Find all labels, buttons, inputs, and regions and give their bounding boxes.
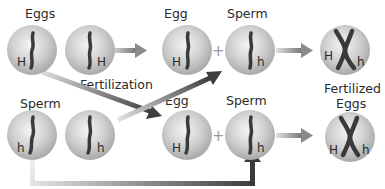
chromosome-icon (89, 33, 91, 68)
zygote-top: H h (320, 25, 370, 75)
arrow-sperm-to-bottom-sperm (30, 150, 261, 186)
zygote-bottom: H h (325, 112, 375, 162)
allele-label-left: H (324, 49, 333, 63)
fertilization-diagram: Eggs Sperm Fertilization Egg Sperm Egg S… (0, 0, 385, 189)
arrow-eggs-to-egg (110, 43, 147, 58)
sperm-cell-1: h (7, 110, 57, 160)
chromosome-icon (186, 117, 189, 153)
sperm-cell-top: h (225, 25, 275, 75)
chromosome-icon (31, 33, 33, 68)
allele-label-right: h (357, 55, 365, 69)
arrow-to-zygote-bottom (276, 128, 313, 143)
label-egg-top: Egg (164, 6, 188, 21)
egg-cell-1: H (7, 25, 57, 75)
egg-cell-bottom: H (162, 110, 212, 160)
allele-label: H (97, 55, 106, 69)
sperm-cell-2: h (65, 110, 115, 160)
sperm-cell-bottom: h (225, 110, 275, 160)
label-sperm-bottom: Sperm (226, 93, 267, 108)
plus-sign-top: + (212, 42, 225, 60)
label-eggs: Eggs (25, 6, 55, 21)
chromosome-icon (250, 117, 252, 153)
chromosome-icon (250, 33, 252, 68)
allele-label: h (97, 141, 105, 155)
allele-label-left: H (329, 143, 338, 157)
label-fertilized: Fertilized (324, 81, 381, 96)
label-sperm-top: Sperm (227, 6, 268, 21)
egg-cell-top: H (162, 25, 212, 75)
allele-label-right: h (362, 143, 370, 157)
chromosome-icon (187, 33, 189, 68)
label-sperm-left: Sperm (20, 96, 61, 111)
allele-label: h (17, 141, 25, 155)
label-fertilized-eggs: Eggs (336, 96, 366, 111)
allele-label: h (257, 55, 265, 69)
allele-label: H (172, 55, 181, 69)
allele-label: H (17, 55, 26, 69)
arrow-to-zygote-top (276, 43, 313, 58)
chromosome-icon (88, 117, 91, 153)
plus-sign-bottom: + (212, 127, 225, 145)
egg-cell-2: H (65, 25, 115, 75)
allele-label: h (257, 141, 265, 155)
allele-label: H (172, 141, 181, 155)
